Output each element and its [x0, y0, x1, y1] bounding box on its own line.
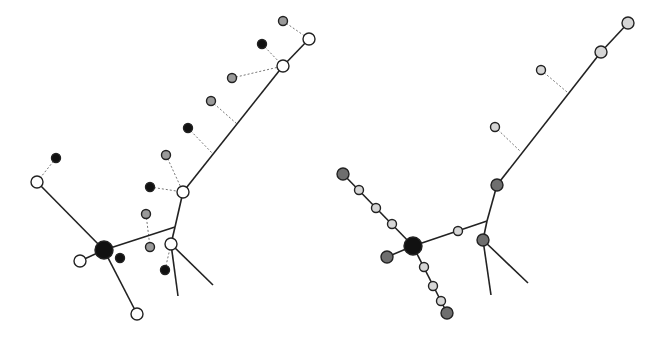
tree-node-dark-gray: [491, 179, 503, 191]
right-tree-diagram: [0, 0, 671, 350]
tree-node-dark-gray: [337, 168, 349, 180]
tree-node-light-gray: [372, 204, 381, 213]
tree-edge: [483, 240, 491, 295]
tree-node-dark-gray: [477, 234, 489, 246]
tree-node-black: [404, 237, 422, 255]
tree-node-light-gray: [388, 220, 397, 229]
tree-edge: [483, 240, 528, 283]
tree-node-light-gray: [355, 186, 364, 195]
tree-node-dark-gray: [381, 251, 393, 263]
tree-node-light-gray: [537, 66, 546, 75]
tree-node-light-gray: [429, 282, 438, 291]
tree-node-light-gray: [420, 263, 429, 272]
tree-node-light-gray: [491, 123, 500, 132]
tree-edge: [413, 221, 487, 246]
diagram-canvas: [0, 0, 671, 350]
tree-edge: [497, 52, 601, 185]
tree-node-light-gray: [622, 17, 634, 29]
tree-node-light-gray: [437, 297, 446, 306]
tree-node-dark-gray: [441, 307, 453, 319]
tree-node-light-gray: [454, 227, 463, 236]
tree-node-light-gray: [595, 46, 607, 58]
